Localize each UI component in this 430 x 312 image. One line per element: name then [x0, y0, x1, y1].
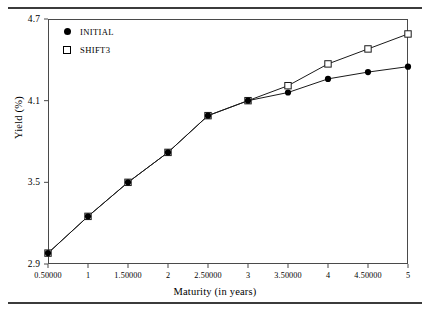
- x-axis-title: Maturity (in years): [0, 286, 430, 297]
- x-tick-label: 1.50000: [114, 271, 141, 280]
- x-tick-label: 3.50000: [274, 271, 301, 280]
- top-divider-rule: [8, 7, 422, 9]
- legend-label-initial: INITIAL: [80, 27, 114, 37]
- chart-figure: 2.93.54.14.7 0.5000011.5000022.5000033.5…: [0, 0, 430, 312]
- x-tick-label: 4.50000: [354, 271, 381, 280]
- x-tick-label: 2.50000: [194, 271, 221, 280]
- x-tick-label: 1: [86, 271, 90, 280]
- chart-legend: INITIAL SHIFT3: [60, 24, 114, 60]
- x-tick-label: 5: [406, 271, 410, 280]
- legend-label-shift3: SHIFT3: [80, 45, 110, 55]
- legend-item-shift3[interactable]: SHIFT3: [60, 42, 114, 57]
- x-tick-label: 0.50000: [34, 271, 61, 280]
- bottom-divider-rule: [8, 302, 422, 304]
- y-tick-label: 4.7: [6, 14, 40, 24]
- x-tick-label: 2: [166, 271, 170, 280]
- y-axis-title: Yield (%): [13, 73, 24, 163]
- x-tick-label: 4: [326, 271, 330, 280]
- x-tick-label: 3: [246, 271, 250, 280]
- y-tick-label: 3.5: [6, 177, 40, 187]
- y-tick-label: 2.9: [6, 259, 40, 269]
- legend-item-initial[interactable]: INITIAL: [60, 24, 114, 39]
- filled-circle-icon: [60, 28, 74, 35]
- open-square-icon: [60, 46, 74, 54]
